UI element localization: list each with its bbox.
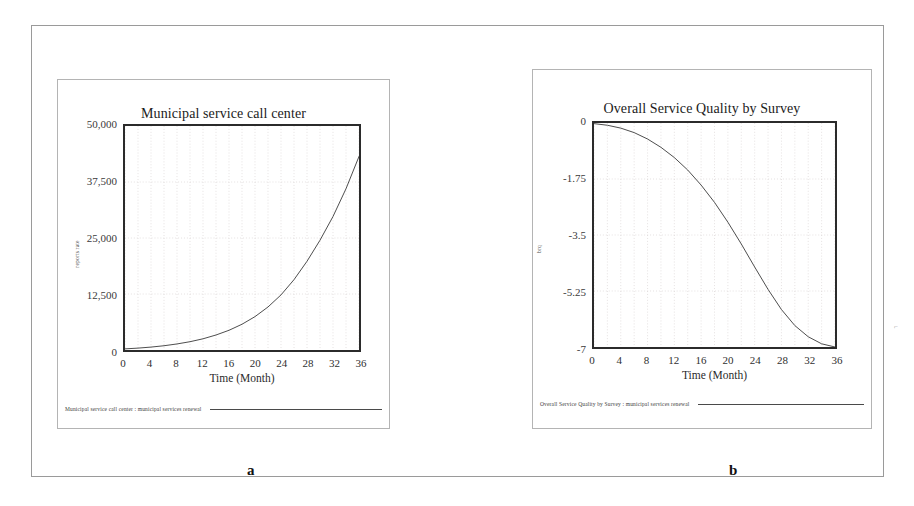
x-tick-label: 8 [644,354,650,366]
chart-b-x-axis-label: Time (Month) [592,369,837,381]
subfigure-caption-a: a [247,462,255,479]
edge-artifact: ⌐ [894,323,898,331]
y-tick-label: 25,000 [87,232,117,244]
x-tick-label: 28 [303,357,314,369]
chart-b-legend: Overall Service Quality by Survey : muni… [540,401,864,407]
x-tick-label: 4 [616,354,622,366]
subfigure-caption-b: b [729,462,737,479]
x-tick-label: 24 [750,354,761,366]
y-tick-label: 37,500 [87,175,117,187]
chart-a-x-axis-label: Time (Month) [123,372,361,384]
chart-panel-b: Overall Service Quality by Survey brq -7… [532,69,872,429]
y-tick-label: 0 [581,115,587,127]
chart-a-y-axis-label: reports rate [74,240,80,267]
chart-a-plot-wrap: 012,50025,00037,50050,000 04812162024283… [123,124,361,352]
x-tick-label: 32 [804,354,815,366]
x-tick-label: 16 [695,354,706,366]
x-tick-label: 28 [777,354,788,366]
figure-outer-frame: Municipal service call center reports ra… [31,25,884,477]
x-tick-label: 0 [120,357,126,369]
x-tick-label: 12 [668,354,679,366]
chart-b-plot-wrap: -7-5.25-3.5-1.750 04812162024283236 Time… [592,121,837,349]
x-tick-label: 32 [329,357,340,369]
chart-b-legend-text: Overall Service Quality by Survey : muni… [540,401,690,407]
chart-a-legend-text: Municipal service call center : municipa… [65,406,202,412]
y-tick-label: 12,500 [87,289,117,301]
x-tick-label: 20 [723,354,734,366]
x-tick-label: 4 [147,357,153,369]
x-tick-label: 24 [276,357,287,369]
x-tick-label: 36 [356,357,367,369]
chart-a-plot-area [123,124,361,352]
x-tick-label: 20 [250,357,261,369]
x-tick-label: 0 [589,354,595,366]
chart-b-legend-line [698,404,864,405]
x-tick-label: 8 [173,357,179,369]
chart-a-legend: Municipal service call center : municipa… [65,406,382,412]
y-tick-label: -3.5 [569,229,586,241]
chart-panel-a: Municipal service call center reports ra… [57,79,390,429]
y-tick-label: -1.75 [563,172,586,184]
y-tick-label: -5.25 [563,286,586,298]
chart-a-plot-svg [125,126,359,350]
chart-b-y-axis-label: brq [536,245,542,253]
y-tick-label: -7 [577,343,586,355]
x-tick-label: 16 [223,357,234,369]
y-tick-label: 0 [112,346,118,358]
chart-b-plot-area [592,121,837,349]
chart-a-legend-line [210,409,382,410]
x-tick-label: 12 [197,357,208,369]
chart-b-plot-svg [594,123,835,347]
x-tick-label: 36 [832,354,843,366]
y-tick-label: 50,000 [87,118,117,130]
